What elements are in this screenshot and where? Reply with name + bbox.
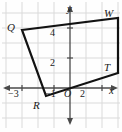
y-tick-label-2: 2 [50, 58, 55, 68]
y-tick-label-4: 4 [50, 28, 55, 38]
origin-label: O [64, 89, 71, 99]
vertex-label-t: T [104, 62, 110, 73]
coordinate-plane-figure: Q W T R y x 4 2 −3 −1 O 2 [0, 0, 122, 132]
vertex-label-w: W [104, 8, 113, 19]
x-tick-label-2: 2 [80, 89, 85, 99]
vertex-label-r: R [33, 100, 40, 111]
x-tick-label-minus-1: −1 [45, 89, 56, 99]
x-axis-label: x [109, 85, 114, 96]
x-tick-label-minus-3: −3 [8, 89, 19, 99]
vertex-label-q: Q [7, 22, 15, 33]
y-axis-label: y [67, 3, 72, 14]
